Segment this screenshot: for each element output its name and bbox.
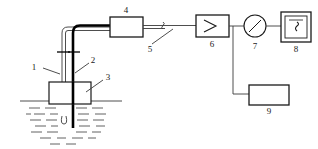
label-4: 4 [124,5,129,15]
label-7: 7 [253,41,258,51]
label-3: 3 [106,72,111,82]
display-meter [281,12,311,42]
inline-unit-box [110,17,143,37]
leader-2 [75,63,89,73]
label-5: 5 [148,44,153,54]
label-6: 6 [210,39,215,49]
liquid-bath [20,101,122,144]
diagram-canvas: 1 2 3 4 5 6 7 8 9 [0,0,318,149]
label-2: 2 [91,55,96,65]
holder-block [49,82,91,104]
dial-gauge [244,15,266,37]
probe-bulb [61,116,66,124]
signal-line-4-to-6 [143,26,196,29]
branch-to-lower-unit [233,26,249,94]
leader-5 [152,29,173,44]
liquid-hatching [26,108,106,144]
leader-1 [43,68,60,74]
label-1: 1 [32,62,37,72]
label-8: 8 [294,44,299,54]
lower-unit-box [249,85,289,105]
schematic-svg: 1 2 3 4 5 6 7 8 9 [0,0,318,149]
label-9: 9 [267,106,272,116]
amplifier-box [196,15,229,37]
